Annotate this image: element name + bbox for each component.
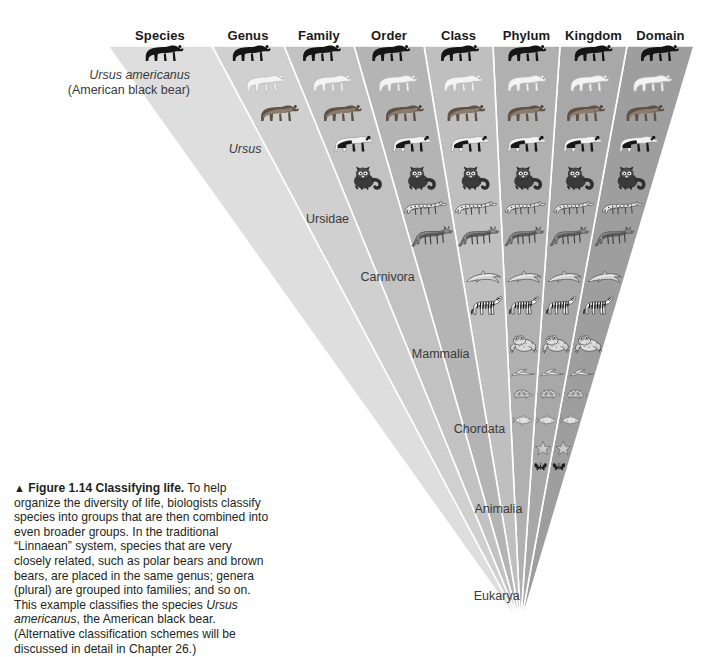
column-header-genus: Genus xyxy=(228,28,269,43)
species-common-name: (American black bear) xyxy=(0,83,190,98)
rank-label-class: Mammalia xyxy=(412,347,470,361)
figure-caption: ▲ Figure 1.14 Classifying life. To help … xyxy=(14,481,270,656)
column-header-order: Order xyxy=(371,28,407,43)
rank-label-genus: Ursus xyxy=(229,142,262,156)
species-rank-label: Ursus americanus (American black bear) xyxy=(0,68,190,98)
rank-label-order: Carnivora xyxy=(361,270,415,284)
column-header-phylum: Phylum xyxy=(503,28,551,43)
caption-figure-title: Classifying life. xyxy=(96,481,185,495)
column-header-kingdom: Kingdom xyxy=(565,28,622,43)
caption-figure-number: Figure 1.14 xyxy=(28,481,92,495)
rank-label-domain: Eukarya xyxy=(474,589,520,603)
caption-triangle-icon: ▲ xyxy=(14,482,25,494)
column-header-family: Family xyxy=(298,28,340,43)
column-header-species: Species xyxy=(135,28,185,43)
species-scientific-name: Ursus americanus xyxy=(0,68,190,83)
column-header-class: Class xyxy=(441,28,476,43)
rank-label-kingdom: Animalia xyxy=(474,502,522,516)
column-header-domain: Domain xyxy=(636,28,684,43)
rank-label-phylum: Chordata xyxy=(454,422,505,436)
rank-label-family: Ursidae xyxy=(306,212,349,226)
caption-body-part-1: To help organize the diversity of life, … xyxy=(14,481,268,612)
